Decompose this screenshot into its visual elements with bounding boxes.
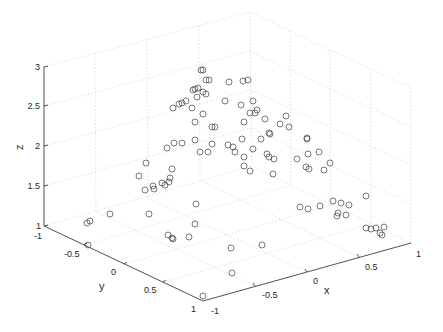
data-point	[239, 136, 245, 142]
data-point	[241, 163, 247, 169]
data-point	[346, 202, 352, 208]
data-point	[193, 201, 199, 207]
x-tick-neg0.5: -0.5	[262, 290, 278, 300]
data-point	[192, 221, 198, 227]
data-point	[250, 98, 256, 104]
x-tick-labels: -1 -0.5 0 0.5 1	[211, 249, 421, 316]
y-tick-neg1: -1	[34, 231, 42, 241]
data-point	[146, 211, 152, 217]
z-tick-2.5: 2.5	[27, 101, 40, 111]
data-point	[241, 119, 247, 125]
x-tick-0.5: 0.5	[365, 262, 378, 272]
z-axis-label: z	[13, 145, 25, 151]
data-point	[327, 160, 333, 166]
data-points	[84, 67, 387, 299]
y-tick-0: 0	[111, 267, 116, 277]
data-point	[316, 149, 322, 155]
y-tick-neg0.5: -0.5	[64, 249, 80, 259]
data-point	[258, 136, 264, 142]
axis-lines	[44, 66, 411, 301]
data-point	[164, 145, 170, 151]
data-point	[166, 179, 172, 185]
data-point	[363, 193, 369, 199]
x-axis-label: x	[324, 284, 330, 296]
data-point	[200, 293, 206, 299]
data-point	[226, 79, 232, 85]
data-point	[305, 206, 311, 212]
data-point	[241, 154, 247, 160]
data-point	[192, 137, 198, 143]
data-point	[250, 146, 256, 152]
data-point	[209, 141, 215, 147]
data-point	[186, 234, 192, 240]
data-point	[222, 98, 228, 104]
data-point	[338, 200, 344, 206]
y-axis	[44, 226, 203, 301]
data-point	[228, 245, 234, 251]
data-point	[232, 149, 238, 155]
z-tick-1.5: 1.5	[27, 181, 40, 191]
z-tick-1: 1	[36, 221, 41, 231]
data-point	[262, 116, 268, 122]
y-tick-labels: -1 -0.5 0 0.5 1	[34, 231, 196, 314]
data-point	[321, 167, 327, 173]
y-tick-0.5: 0.5	[144, 285, 157, 295]
data-point	[167, 175, 173, 181]
y-tick-1: 1	[191, 304, 196, 314]
data-point	[271, 156, 277, 162]
data-point	[205, 149, 211, 155]
scatter3d-plot: 3 2.5 2 1.5 1 -1 -0.5 0 0.5 1 -1 -0.5 0 …	[0, 0, 443, 332]
data-point	[283, 113, 289, 119]
data-point	[136, 173, 142, 179]
data-point	[286, 124, 292, 130]
data-point	[238, 102, 244, 108]
z-tick-labels: 3 2.5 2 1.5 1	[27, 62, 41, 231]
data-point	[165, 232, 171, 238]
data-point	[381, 224, 387, 230]
data-point	[171, 140, 177, 146]
grid-lines	[44, 12, 411, 286]
data-point	[189, 105, 195, 111]
data-point	[343, 212, 349, 218]
data-point	[270, 171, 276, 177]
y-axis-label: y	[99, 280, 105, 292]
x-tick-1: 1	[416, 249, 421, 259]
data-point	[179, 140, 185, 146]
x-tick-0: 0	[313, 276, 318, 286]
data-point	[170, 105, 176, 111]
data-point	[107, 211, 113, 217]
z-tick-3: 3	[35, 62, 40, 72]
x-tick-neg1: -1	[211, 306, 219, 316]
data-point	[143, 160, 149, 166]
data-point	[247, 168, 253, 174]
data-point	[294, 156, 300, 162]
z-tick-2: 2	[35, 141, 40, 151]
data-point	[297, 204, 303, 210]
data-point	[142, 187, 148, 193]
data-point	[169, 166, 175, 172]
data-point	[277, 121, 283, 127]
data-point	[259, 242, 265, 248]
data-point	[192, 119, 198, 125]
data-point	[200, 111, 206, 117]
data-point	[229, 270, 235, 276]
